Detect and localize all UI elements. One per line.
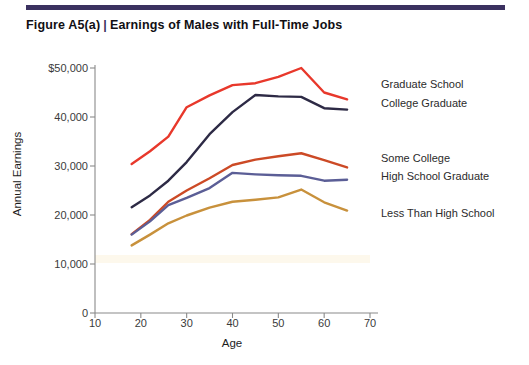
y-tick-label: $50,000 [30, 62, 88, 74]
series-line-college-graduate [132, 95, 347, 207]
x-tick-label: 50 [272, 317, 284, 329]
x-axis-title: Age [182, 337, 282, 349]
x-tick-label: 70 [364, 317, 376, 329]
highlight-band [95, 255, 370, 263]
series-line-graduate-school [132, 68, 347, 164]
y-tick-label: 30,000 [30, 160, 88, 172]
y-tick-label: 10,000 [30, 258, 88, 270]
figure-title-text: Earnings of Males with Full-Time Jobs [110, 18, 342, 32]
x-tick-label: 60 [318, 317, 330, 329]
series-line-less-than-high-school [132, 190, 347, 246]
y-tick-label: 20,000 [30, 209, 88, 221]
series-label-college-graduate: College Graduate [381, 97, 467, 109]
x-tick-label: 20 [135, 317, 147, 329]
y-tick-label: 40,000 [30, 111, 88, 123]
chart-container: 010,00020,00030,00040,000$50,000 1020304… [0, 40, 529, 365]
header-rule [26, 5, 505, 10]
series-label-less-than-high-school: Less Than High School [381, 207, 495, 219]
data-series-group [132, 68, 347, 245]
x-tick-label: 10 [89, 317, 101, 329]
y-axis-ticks [90, 68, 95, 313]
x-axis-tick-labels: 10203040506070 [0, 317, 529, 337]
y-axis-title: Annual Earnings [11, 124, 23, 224]
series-label-high-school-graduate: High School Graduate [381, 170, 489, 182]
x-tick-label: 40 [226, 317, 238, 329]
title-divider: | [100, 18, 110, 32]
series-line-some-college [132, 153, 347, 234]
figure-number: Figure A5(a) [26, 18, 100, 32]
page-title: Figure A5(a)|Earnings of Males with Full… [26, 18, 342, 32]
series-label-some-college: Some College [381, 152, 450, 164]
x-tick-label: 30 [181, 317, 193, 329]
series-label-graduate-school: Graduate School [381, 78, 464, 90]
